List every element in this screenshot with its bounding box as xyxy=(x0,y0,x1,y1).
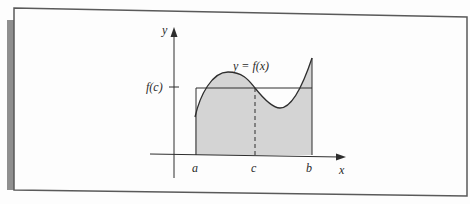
mvt-integral-diagram: y y = f(x) f(c) a c b x xyxy=(0,0,470,204)
x-axis-arrow-icon xyxy=(336,154,346,161)
curve-label: y = f(x) xyxy=(232,59,269,73)
b-label: b xyxy=(306,161,312,175)
side-bar xyxy=(7,20,14,190)
fc-label: f(c) xyxy=(146,80,163,94)
a-label: a xyxy=(192,161,198,175)
x-axis-label: x xyxy=(338,163,345,177)
y-axis-label: y xyxy=(161,23,168,37)
c-label: c xyxy=(251,161,257,175)
y-axis-arrow-icon xyxy=(171,27,178,37)
